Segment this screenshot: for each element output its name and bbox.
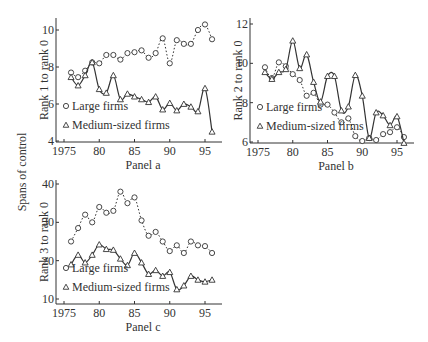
circle-marker: [97, 204, 102, 209]
circle-marker: [181, 250, 186, 255]
y-axis-label: Rank 1 to rank 0: [37, 40, 51, 120]
circle-marker: [90, 220, 95, 225]
circle-marker: [153, 229, 158, 234]
circle-marker: [353, 134, 358, 139]
legend-large-firms: Large firms: [72, 99, 128, 113]
circle-marker: [125, 51, 130, 56]
triangle-marker: [174, 286, 180, 291]
x-tick-label: 80: [93, 306, 105, 320]
triangle-marker: [139, 260, 145, 265]
circle-marker: [325, 102, 330, 107]
x-tick-label: 90: [356, 145, 368, 159]
circle-marker: [160, 239, 165, 244]
x-tick-label: 95: [391, 145, 403, 159]
circle-marker: [97, 61, 102, 66]
x-axis-label: Panel a: [126, 158, 162, 172]
circle-marker: [276, 60, 281, 65]
x-tick-label: 1975: [52, 306, 76, 320]
circle-marker: [174, 38, 179, 43]
circle-marker: [188, 239, 193, 244]
circle-marker: [167, 248, 172, 253]
circle-marker: [195, 27, 200, 32]
circle-marker: [76, 225, 81, 230]
y-tick-label: 10: [42, 292, 54, 306]
x-tick-label: 1975: [246, 145, 270, 159]
x-tick-label: 85: [129, 144, 141, 158]
triangle-icon: [63, 122, 69, 127]
circle-marker: [360, 138, 365, 143]
triangle-marker: [75, 252, 81, 257]
circle-marker: [209, 37, 214, 42]
triangle-marker: [352, 72, 358, 77]
triangle-marker: [373, 110, 379, 115]
triangle-marker: [103, 90, 109, 95]
circle-marker: [181, 41, 186, 46]
y-axis-label: Rank 3 to rank 0: [37, 202, 51, 282]
x-tick-label: 85: [322, 145, 334, 159]
circle-marker: [132, 195, 137, 200]
legend-medium-firms: Medium-sized firms: [72, 280, 170, 294]
circle-marker: [111, 52, 116, 57]
x-tick-label: 90: [164, 144, 176, 158]
y-axis-label: Rank 2 to rank 0: [231, 41, 245, 121]
circle-marker: [76, 75, 81, 80]
y-tick-label: 40: [42, 177, 54, 191]
circle-marker: [139, 218, 144, 223]
triangle-marker: [96, 86, 102, 91]
circle-marker: [332, 110, 337, 115]
circle-marker: [83, 212, 88, 217]
circle-marker: [132, 50, 137, 55]
x-axis-label: Panel b: [318, 159, 354, 173]
circle-marker: [394, 125, 399, 130]
triangle-marker: [132, 94, 138, 99]
legend: Large firmsMedium-sized firms: [63, 261, 170, 294]
x-tick-label: 80: [287, 145, 299, 159]
circle-marker: [125, 201, 130, 206]
triangle-marker: [188, 104, 194, 109]
triangle-marker: [202, 85, 208, 90]
triangle-marker: [153, 267, 159, 272]
circle-marker: [146, 55, 151, 60]
circle-marker: [174, 243, 179, 248]
circle-marker: [118, 57, 123, 62]
x-tick-label: 95: [199, 306, 211, 320]
x-axis-label: Panel c: [126, 320, 161, 334]
circle-marker: [118, 189, 123, 194]
legend-large-firms: Large firms: [72, 261, 128, 275]
circle-marker: [202, 22, 207, 27]
x-tick-label: 1975: [52, 144, 76, 158]
legend-large-firms: Large firms: [266, 100, 322, 114]
circle-marker: [387, 130, 392, 135]
circle-marker: [104, 210, 109, 215]
chart-panel-b: 681012197580859095Panel bRank 2 to rank …: [231, 17, 414, 173]
triangle-marker: [68, 74, 74, 79]
triangle-marker: [338, 108, 344, 113]
circle-marker: [104, 52, 109, 57]
triangle-marker: [209, 129, 215, 134]
figure: Spans of control 46810197580859095Panel …: [0, 0, 428, 342]
legend-medium-firms: Medium-sized firms: [266, 119, 364, 133]
circle-icon: [63, 265, 68, 270]
triangle-icon: [63, 284, 69, 289]
circle-marker: [297, 77, 302, 82]
x-tick-label: 95: [199, 144, 211, 158]
legend-medium-firms: Medium-sized firms: [72, 118, 170, 132]
circle-marker: [68, 239, 73, 244]
circle-marker: [304, 93, 309, 98]
triangle-marker: [290, 38, 296, 43]
circle-marker: [139, 48, 144, 53]
triangle-marker: [331, 73, 337, 78]
circle-icon: [257, 104, 262, 109]
shared-y-label: Spans of control: [15, 132, 29, 211]
circle-marker: [374, 137, 379, 142]
circle-marker: [146, 233, 151, 238]
y-tick-label: 10: [42, 23, 54, 37]
circle-marker: [290, 72, 295, 77]
legend: Large firmsMedium-sized firms: [63, 99, 170, 132]
triangle-marker: [132, 250, 138, 255]
triangle-marker: [110, 72, 116, 77]
triangle-icon: [257, 123, 263, 128]
triangle-marker: [359, 93, 365, 98]
triangle-marker: [96, 242, 102, 247]
triangle-marker: [304, 51, 310, 56]
